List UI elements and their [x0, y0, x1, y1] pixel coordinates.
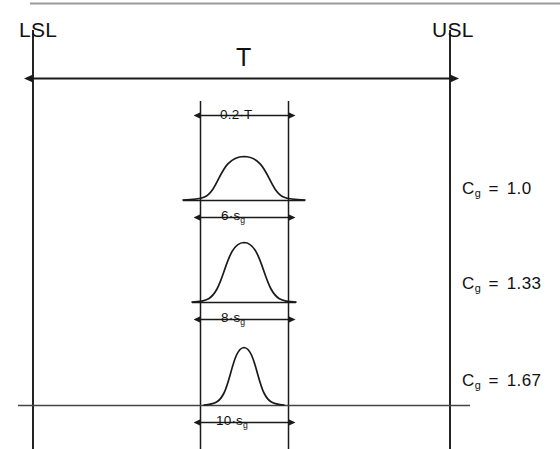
cg-symbol-2: C: [462, 274, 475, 293]
normal-curve-1: [183, 157, 305, 201]
cg-symbol-1: C: [462, 179, 475, 198]
spread-label-3-subscript: g: [243, 420, 248, 430]
cg-value-3: Cg=1.67: [462, 372, 541, 391]
spread-label-2: 8·sg: [221, 311, 245, 326]
normal-curve-2: [192, 243, 296, 303]
spread-label-3-text: 10·s: [216, 413, 243, 428]
cg-equals-2: =: [481, 275, 507, 292]
cg-equals-3: =: [481, 372, 507, 389]
spread-label-2-subscript: g: [240, 317, 245, 327]
cg-symbol-3: C: [462, 371, 475, 390]
spread-label-1-text: 6·s: [221, 208, 240, 223]
tolerance-label: T: [236, 45, 251, 70]
spread-label-2-text: 8·s: [221, 310, 240, 325]
spread-label-3: 10·sg: [216, 414, 248, 429]
cg-number-2: 1.33: [507, 275, 542, 292]
diagram-canvas: LSL USL T 0.2·T 6·sg 8·sg 10·sg Cg=1.0 C…: [0, 0, 560, 449]
normal-curve-3: [204, 348, 284, 406]
cg-value-2: Cg=1.33: [462, 275, 541, 294]
cg-value-1: Cg=1.0: [462, 180, 532, 199]
usl-label: USL: [432, 19, 474, 40]
cg-equals-1: =: [481, 180, 507, 197]
cg-number-3: 1.67: [507, 372, 542, 389]
lsl-label: LSL: [19, 19, 57, 40]
spread-label-1: 6·sg: [221, 209, 245, 224]
spread-label-1-subscript: g: [240, 215, 245, 225]
band-width-label: 0.2·T: [220, 108, 253, 122]
cg-number-1: 1.0: [507, 180, 532, 197]
